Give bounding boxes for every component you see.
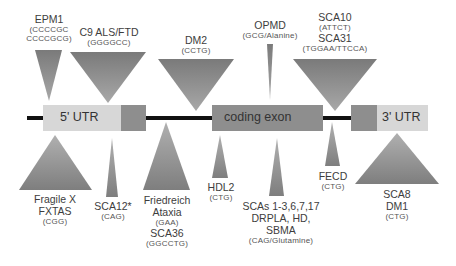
opmd-triangle bbox=[267, 44, 273, 100]
fragile-x-triangle bbox=[19, 135, 92, 190]
disease-name: SCA12* bbox=[90, 200, 136, 212]
epm1-label: EPM1 (CCCCGC CCCCGCG) bbox=[22, 13, 76, 43]
disease-name: C9 ALS/FTD bbox=[74, 26, 144, 38]
fecd-triangle bbox=[325, 122, 340, 166]
disease-name: SCAs 1-3,6,7,17 bbox=[236, 200, 326, 212]
sca10-sca31-label: SCA10 (ATTCT) SCA31 (TGGAA/TTCCA) bbox=[295, 11, 375, 54]
repeat-sequence: (CTG) bbox=[203, 193, 239, 202]
five-utr-exon-box bbox=[121, 105, 146, 131]
repeat-sequence: (CTG) bbox=[377, 212, 417, 221]
five-utr-label: 5' UTR bbox=[60, 110, 99, 124]
c9-als-ftd-label: C9 ALS/FTD (GGGGCC) bbox=[74, 26, 144, 47]
repeat-sequence: (CGG) bbox=[25, 217, 85, 226]
disease-name: SBMA bbox=[236, 224, 326, 236]
disease-name: DM1 bbox=[377, 200, 417, 212]
disease-name: DRPLA, HD, bbox=[236, 212, 326, 224]
repeat-sequence: (ATTCT) bbox=[295, 23, 375, 32]
fecd-label: FECD (CTG) bbox=[315, 170, 351, 191]
opmd-label: OPMD (GCG/Alanine) bbox=[240, 19, 300, 40]
three-utr-label: 3' UTR bbox=[382, 110, 421, 124]
hdl2-triangle bbox=[212, 135, 228, 178]
disease-name: Ataxia bbox=[139, 206, 195, 218]
coding-exon-label: coding exon bbox=[224, 110, 291, 124]
repeat-sequence: (GCG/Alanine) bbox=[240, 31, 300, 40]
repeat-sequence: (TGGAA/TTCCA) bbox=[295, 44, 375, 53]
sca8-dm1-label: SCA8 DM1 (CTG) bbox=[377, 188, 417, 221]
repeat-sequence: (GAA) bbox=[139, 218, 195, 227]
dm2-triangle bbox=[158, 59, 234, 111]
disease-name: Friedreich bbox=[139, 194, 195, 206]
disease-name: Fragile X bbox=[25, 193, 85, 205]
scas-label: SCAs 1-3,6,7,17 DRPLA, HD, SBMA (CAG/Glu… bbox=[236, 200, 326, 245]
disease-name: FECD bbox=[315, 170, 351, 182]
repeat-sequence: (CCCCGC bbox=[22, 25, 76, 34]
disease-name: DM2 bbox=[170, 34, 222, 46]
disease-name: SCA36 bbox=[139, 227, 195, 239]
repeat-sequence: (CAG/Glutamine) bbox=[236, 236, 326, 245]
repeat-sequence: (GGCCTG) bbox=[139, 239, 195, 248]
disease-name: SCA10 bbox=[295, 11, 375, 23]
disease-name: OPMD bbox=[240, 19, 300, 31]
hdl2-label: HDL2 (CTG) bbox=[203, 181, 239, 202]
sca10-sca31-triangle bbox=[293, 59, 377, 111]
disease-name: EPM1 bbox=[22, 13, 76, 25]
sca12-triangle bbox=[106, 138, 118, 197]
friedreich-label: Friedreich Ataxia (GAA) SCA36 (GGCCTG) bbox=[139, 194, 195, 249]
disease-name: SCA31 bbox=[295, 32, 375, 44]
three-utr-exon-box bbox=[351, 105, 377, 131]
disease-name: SCA8 bbox=[377, 188, 417, 200]
sca12-label: SCA12* (CAG) bbox=[90, 200, 136, 221]
repeat-sequence: (GGGGCC) bbox=[74, 38, 144, 47]
fragile-x-label: Fragile X FXTAS (CGG) bbox=[25, 193, 85, 226]
sca8-dm1-triangle bbox=[355, 133, 439, 184]
c9-als-ftd-triangle bbox=[70, 52, 146, 103]
dm2-label: DM2 (CCTG) bbox=[170, 34, 222, 55]
repeat-sequence: (CTG) bbox=[315, 182, 351, 191]
scas-triangle bbox=[269, 138, 284, 196]
repeat-sequence: (CAG) bbox=[90, 212, 136, 221]
disease-name: FXTAS bbox=[25, 205, 85, 217]
repeat-sequence: (CCTG) bbox=[170, 46, 222, 55]
friedreich-triangle bbox=[143, 122, 190, 190]
repeat-sequence: CCCCGCG) bbox=[22, 34, 76, 43]
disease-name: HDL2 bbox=[203, 181, 239, 193]
epm1-triangle bbox=[35, 50, 62, 101]
